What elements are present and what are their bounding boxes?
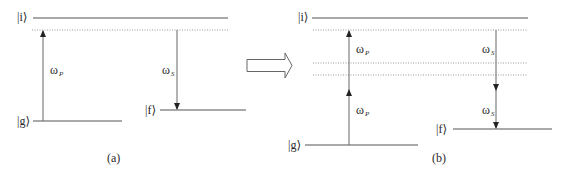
hollow-arrow-icon	[247, 53, 292, 78]
caption-b: (b)	[432, 152, 446, 164]
label-level-g-b: |g⟩	[288, 139, 301, 151]
label-level-i-a: |i⟩	[17, 11, 27, 23]
label-pump-lower-b: ωP	[356, 104, 369, 120]
arrowhead-up-icon	[40, 30, 46, 37]
label-pump-upper-b: ωP	[356, 43, 369, 59]
panel-b	[305, 18, 552, 145]
label-level-i-b: |i⟩	[298, 11, 308, 23]
label-stokes-lower-b: ωS	[482, 104, 494, 120]
arrowhead-down-icon	[174, 103, 180, 110]
arrowhead-up-icon	[346, 89, 352, 96]
label-stokes-a: ωS	[162, 64, 174, 80]
arrowhead-down-icon	[493, 122, 499, 129]
label-stokes-upper-b: ωS	[482, 43, 494, 59]
caption-a: (a)	[107, 152, 120, 164]
arrowhead-up-icon	[346, 30, 352, 37]
arrowhead-down-icon	[493, 84, 499, 91]
label-level-f-b: |f⟩	[436, 123, 447, 135]
label-level-g-a: |g⟩	[17, 115, 30, 127]
label-level-f-a: |f⟩	[145, 104, 156, 116]
panel-a	[32, 18, 246, 121]
energy-level-diagram	[0, 0, 570, 176]
label-pump-a: ωP	[50, 64, 63, 80]
